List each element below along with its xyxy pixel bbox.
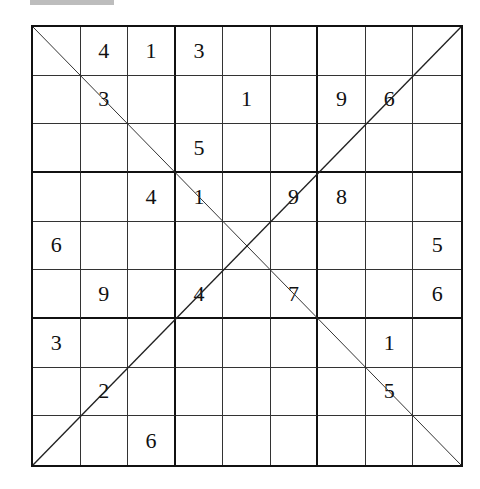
given-cell[interactable]: 1 bbox=[128, 27, 176, 76]
empty-cell[interactable] bbox=[413, 416, 461, 465]
given-cell[interactable]: 4 bbox=[81, 27, 129, 76]
given-cell[interactable]: 9 bbox=[271, 173, 319, 222]
given-cell[interactable]: 3 bbox=[33, 319, 81, 368]
empty-cell[interactable] bbox=[366, 27, 414, 76]
empty-cell[interactable] bbox=[413, 76, 461, 125]
empty-cell[interactable] bbox=[318, 416, 366, 465]
given-cell[interactable]: 1 bbox=[366, 319, 414, 368]
given-cell[interactable]: 3 bbox=[176, 27, 224, 76]
header-bar bbox=[30, 0, 114, 5]
empty-cell[interactable] bbox=[176, 76, 224, 125]
empty-cell[interactable] bbox=[128, 76, 176, 125]
empty-cell[interactable] bbox=[271, 319, 319, 368]
empty-cell[interactable] bbox=[223, 124, 271, 173]
empty-cell[interactable] bbox=[271, 368, 319, 417]
empty-cell[interactable] bbox=[33, 270, 81, 319]
given-cell[interactable]: 5 bbox=[366, 368, 414, 417]
empty-cell[interactable] bbox=[33, 27, 81, 76]
given-cell[interactable]: 1 bbox=[223, 76, 271, 125]
empty-cell[interactable] bbox=[223, 27, 271, 76]
empty-cell[interactable] bbox=[223, 368, 271, 417]
empty-cell[interactable] bbox=[413, 124, 461, 173]
empty-cell[interactable] bbox=[33, 76, 81, 125]
empty-cell[interactable] bbox=[318, 270, 366, 319]
given-cell[interactable]: 6 bbox=[33, 222, 81, 271]
empty-cell[interactable] bbox=[128, 319, 176, 368]
empty-cell[interactable] bbox=[413, 319, 461, 368]
empty-cell[interactable] bbox=[318, 124, 366, 173]
empty-cell[interactable] bbox=[33, 124, 81, 173]
sudoku-board: 41331965419865947631256 bbox=[31, 25, 463, 467]
empty-cell[interactable] bbox=[223, 319, 271, 368]
empty-cell[interactable] bbox=[413, 173, 461, 222]
given-cell[interactable]: 6 bbox=[413, 270, 461, 319]
empty-cell[interactable] bbox=[413, 368, 461, 417]
empty-cell[interactable] bbox=[318, 319, 366, 368]
empty-cell[interactable] bbox=[176, 319, 224, 368]
empty-cell[interactable] bbox=[271, 27, 319, 76]
empty-cell[interactable] bbox=[223, 222, 271, 271]
empty-cell[interactable] bbox=[128, 368, 176, 417]
empty-cell[interactable] bbox=[271, 124, 319, 173]
given-cell[interactable]: 5 bbox=[413, 222, 461, 271]
given-cell[interactable]: 3 bbox=[81, 76, 129, 125]
empty-cell[interactable] bbox=[33, 416, 81, 465]
empty-cell[interactable] bbox=[223, 270, 271, 319]
empty-cell[interactable] bbox=[271, 222, 319, 271]
given-cell[interactable]: 8 bbox=[318, 173, 366, 222]
empty-cell[interactable] bbox=[176, 222, 224, 271]
empty-cell[interactable] bbox=[318, 222, 366, 271]
sudoku-grid: 41331965419865947631256 bbox=[33, 27, 461, 465]
empty-cell[interactable] bbox=[176, 416, 224, 465]
given-cell[interactable]: 6 bbox=[366, 76, 414, 125]
empty-cell[interactable] bbox=[81, 222, 129, 271]
empty-cell[interactable] bbox=[223, 173, 271, 222]
given-cell[interactable]: 5 bbox=[176, 124, 224, 173]
given-cell[interactable]: 6 bbox=[128, 416, 176, 465]
given-cell[interactable]: 9 bbox=[81, 270, 129, 319]
empty-cell[interactable] bbox=[366, 222, 414, 271]
empty-cell[interactable] bbox=[128, 124, 176, 173]
empty-cell[interactable] bbox=[413, 27, 461, 76]
empty-cell[interactable] bbox=[271, 416, 319, 465]
empty-cell[interactable] bbox=[318, 27, 366, 76]
empty-cell[interactable] bbox=[271, 76, 319, 125]
given-cell[interactable]: 9 bbox=[318, 76, 366, 125]
empty-cell[interactable] bbox=[366, 124, 414, 173]
given-cell[interactable]: 2 bbox=[81, 368, 129, 417]
given-cell[interactable]: 4 bbox=[176, 270, 224, 319]
empty-cell[interactable] bbox=[33, 368, 81, 417]
empty-cell[interactable] bbox=[33, 173, 81, 222]
empty-cell[interactable] bbox=[81, 416, 129, 465]
given-cell[interactable]: 4 bbox=[128, 173, 176, 222]
empty-cell[interactable] bbox=[81, 124, 129, 173]
empty-cell[interactable] bbox=[81, 319, 129, 368]
empty-cell[interactable] bbox=[223, 416, 271, 465]
given-cell[interactable]: 1 bbox=[176, 173, 224, 222]
given-cell[interactable]: 7 bbox=[271, 270, 319, 319]
empty-cell[interactable] bbox=[81, 173, 129, 222]
empty-cell[interactable] bbox=[318, 368, 366, 417]
empty-cell[interactable] bbox=[366, 270, 414, 319]
empty-cell[interactable] bbox=[128, 222, 176, 271]
empty-cell[interactable] bbox=[366, 416, 414, 465]
empty-cell[interactable] bbox=[366, 173, 414, 222]
empty-cell[interactable] bbox=[128, 270, 176, 319]
empty-cell[interactable] bbox=[176, 368, 224, 417]
